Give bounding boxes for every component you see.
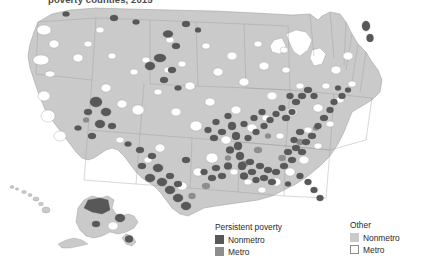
legend-label-other-nonmetro: Nonmetro [363,233,400,243]
legend-item-other-nonmetro: Nonmetro [350,232,400,243]
hawaii-inset [10,186,50,213]
legend-label-pp-nonmetro: Nonmetro [228,235,265,245]
legend-item-pp-metro: Metro [215,246,282,257]
figure-title-strip: poverty counties, 2015 [0,0,425,7]
swatch-other-metro-icon [350,245,359,254]
legend-persistent-poverty-title: Persistent poverty [215,222,282,232]
legend-persistent-poverty: Persistent poverty Nonmetro Metro [215,222,282,257]
legend-other-title: Other [350,220,400,230]
persistent-poverty-map-figure: poverty counties, 2015 [0,0,425,264]
legend-label-pp-metro: Metro [228,247,249,257]
legend-other: Other Nonmetro Metro [350,220,400,255]
legend-item-other-metro: Metro [350,244,400,255]
legend-item-pp-nonmetro: Nonmetro [215,234,282,245]
page-title: poverty counties, 2015 [48,0,153,5]
swatch-pp-metro-icon [215,247,224,256]
alaska-inset [58,196,138,248]
swatch-pp-nonmetro-icon [215,235,224,244]
legend-label-other-metro: Metro [363,245,384,255]
alaska-aleutians [58,238,88,248]
swatch-other-nonmetro-icon [350,233,359,242]
